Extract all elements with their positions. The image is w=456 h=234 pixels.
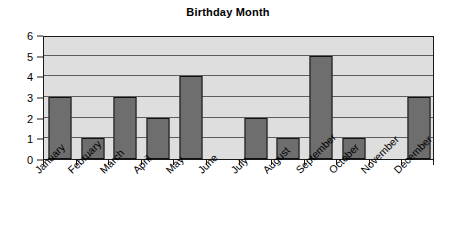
plot-area — [43, 36, 434, 160]
y-tick-label: 4 — [27, 72, 33, 83]
bar-slot — [272, 37, 305, 159]
y-tick-label: 1 — [27, 134, 33, 145]
bar-slot — [207, 37, 240, 159]
y-tick-label: 6 — [27, 31, 33, 42]
bar-july[interactable] — [244, 118, 267, 159]
bars-layer — [44, 37, 433, 159]
bar-chart: Birthday Month 0123456 JanuaryFebruaryMa… — [0, 0, 456, 234]
bar-slot — [337, 37, 370, 159]
bar-slot — [44, 37, 77, 159]
y-tick-label: 5 — [27, 51, 33, 62]
bar-slot — [240, 37, 273, 159]
x-axis-labels: JanuaryFebruaryMarchAprilMayJuneJulyAugu… — [43, 166, 434, 234]
bar-may[interactable] — [179, 76, 202, 159]
bar-april[interactable] — [147, 118, 170, 159]
y-tick-label: 3 — [27, 93, 33, 104]
chart-title: Birthday Month — [0, 6, 456, 18]
y-tick-label: 0 — [27, 155, 33, 166]
y-tick-label: 2 — [27, 113, 33, 124]
x-tick-mark — [433, 160, 434, 165]
y-axis: 0123456 — [0, 36, 43, 160]
bar-slot — [142, 37, 175, 159]
bar-slot — [174, 37, 207, 159]
bar-slot — [109, 37, 142, 159]
